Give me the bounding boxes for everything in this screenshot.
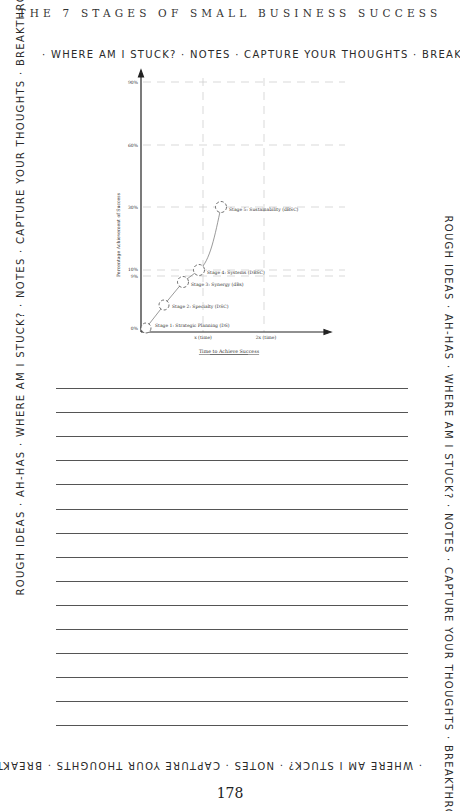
y-tick-30: 30% bbox=[128, 205, 139, 210]
note-line bbox=[56, 484, 408, 485]
y-tick-0: 0% bbox=[131, 326, 139, 331]
stage-5-label: Stage 5: Sustainability (dBSC) bbox=[229, 207, 299, 212]
note-line bbox=[56, 605, 408, 606]
page-number: 178 bbox=[0, 785, 460, 801]
stage-1-marker bbox=[141, 323, 151, 333]
note-line bbox=[56, 388, 408, 389]
y-tick-90: 90% bbox=[128, 80, 139, 85]
note-line bbox=[56, 677, 408, 678]
y-tick-10: 10% bbox=[128, 267, 139, 272]
note-line bbox=[56, 581, 408, 582]
stage-3-marker bbox=[178, 277, 189, 288]
svg-text:x (time): x (time) bbox=[194, 335, 212, 340]
stage-5-marker bbox=[216, 202, 227, 213]
stage-markers bbox=[141, 202, 227, 334]
svg-text:2x (time): 2x (time) bbox=[256, 335, 277, 340]
note-line bbox=[56, 436, 408, 437]
stage-labels: Stage 1: Strategic Planning (DS) Stage 2… bbox=[155, 207, 299, 328]
y-axis-title: Percentage Achievement of Success bbox=[116, 192, 122, 277]
axes bbox=[139, 70, 332, 335]
border-text-bottom: · WHERE AM I STUCK? · NOTES · CAPTURE YO… bbox=[42, 760, 422, 771]
stage-2-marker bbox=[159, 300, 169, 310]
note-line bbox=[56, 701, 408, 702]
note-line bbox=[56, 533, 408, 534]
y-tick-9: 9% bbox=[131, 274, 139, 279]
note-line bbox=[56, 557, 408, 558]
note-line bbox=[56, 629, 408, 630]
stage-2-label: Stage 2: Specialty (DSC) bbox=[172, 304, 229, 309]
note-line bbox=[56, 412, 408, 413]
stage-1-label: Stage 1: Strategic Planning (DS) bbox=[155, 323, 230, 328]
note-line bbox=[56, 725, 408, 726]
stage-3-label: Stage 3: Synergy (dBs) bbox=[191, 282, 244, 287]
x-tick-labels: x (time) 2x (time) bbox=[194, 335, 276, 340]
x-axis-title: Time to Achieve Success bbox=[199, 349, 260, 354]
note-line bbox=[56, 509, 408, 510]
note-line bbox=[56, 460, 408, 461]
progress-curve bbox=[146, 207, 221, 328]
stage-4-label: Stage 4: Systems (DBSC) bbox=[207, 270, 265, 275]
stage-4-marker bbox=[194, 265, 205, 276]
stages-chart: 90% 60% 30% 10% 9% 0% Percentage Achieve… bbox=[0, 0, 460, 400]
note-line bbox=[56, 653, 408, 654]
y-tick-60: 60% bbox=[128, 143, 139, 148]
y-tick-labels: 90% 60% 30% 10% 9% 0% bbox=[128, 80, 139, 331]
